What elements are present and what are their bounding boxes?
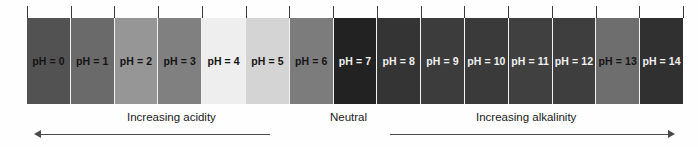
ph-band-14: pH = 14 bbox=[640, 18, 683, 104]
ph-band-label: pH = 14 bbox=[642, 56, 680, 67]
ph-band-label: pH = 0 bbox=[32, 56, 64, 67]
tick-mark bbox=[639, 6, 640, 18]
ph-band-9: pH = 9 bbox=[421, 18, 465, 104]
tick-mark bbox=[683, 6, 684, 18]
ph-band-4: pH = 4 bbox=[202, 18, 246, 104]
tick-mark bbox=[114, 6, 115, 18]
annotation-row: Increasing acidity Neutral Increasing al… bbox=[0, 110, 698, 147]
tick-mark bbox=[508, 6, 509, 18]
ph-band-label: pH = 3 bbox=[164, 56, 196, 67]
ph-band-label: pH = 6 bbox=[295, 56, 327, 67]
ph-band-8: pH = 8 bbox=[377, 18, 421, 104]
alkalinity-arrow-line bbox=[390, 134, 670, 135]
ph-band-label: pH = 12 bbox=[555, 56, 593, 67]
ph-band-label: pH = 7 bbox=[339, 56, 371, 67]
tick-mark bbox=[246, 6, 247, 18]
tick-mark bbox=[421, 6, 422, 18]
ph-band-label: pH = 8 bbox=[383, 56, 415, 67]
increasing-acidity-label: Increasing acidity bbox=[127, 110, 216, 125]
ph-band-label: pH = 4 bbox=[207, 56, 239, 67]
tick-mark bbox=[71, 6, 72, 18]
tick-mark bbox=[464, 6, 465, 18]
tick-mark bbox=[158, 6, 159, 18]
ph-band-3: pH = 3 bbox=[158, 18, 202, 104]
tick-mark bbox=[333, 6, 334, 18]
tick-mark bbox=[289, 6, 290, 18]
tick-mark bbox=[202, 6, 203, 18]
ph-band-5: pH = 5 bbox=[246, 18, 290, 104]
ph-band-label: pH = 2 bbox=[120, 56, 152, 67]
ph-band-label: pH = 9 bbox=[426, 56, 458, 67]
acidity-arrow-line bbox=[38, 134, 270, 135]
ph-band-label: pH = 1 bbox=[76, 56, 108, 67]
ph-band-1: pH = 1 bbox=[71, 18, 115, 104]
ph-scale-figure: pH = 0pH = 1pH = 2pH = 3pH = 4pH = 5pH =… bbox=[0, 0, 698, 147]
ph-band-label: pH = 10 bbox=[467, 56, 505, 67]
tick-mark bbox=[552, 6, 553, 18]
ph-band-label: pH = 5 bbox=[251, 56, 283, 67]
ph-band-label: pH = 13 bbox=[599, 56, 637, 67]
increasing-alkalinity-label: Increasing alkalinity bbox=[476, 110, 576, 125]
ph-band-12: pH = 12 bbox=[553, 18, 597, 104]
ph-band-7: pH = 7 bbox=[334, 18, 378, 104]
tick-mark bbox=[377, 6, 378, 18]
ph-band-0: pH = 0 bbox=[27, 18, 71, 104]
ph-band-11: pH = 11 bbox=[509, 18, 553, 104]
ph-band-2: pH = 2 bbox=[115, 18, 159, 104]
ph-band-10: pH = 10 bbox=[465, 18, 509, 104]
alkalinity-arrow-right-icon bbox=[668, 130, 675, 138]
tick-mark-row bbox=[27, 6, 683, 18]
ph-scale-bar: pH = 0pH = 1pH = 2pH = 3pH = 4pH = 5pH =… bbox=[27, 18, 683, 104]
tick-mark bbox=[27, 6, 28, 18]
tick-mark bbox=[596, 6, 597, 18]
neutral-label: Neutral bbox=[330, 110, 367, 125]
ph-band-6: pH = 6 bbox=[290, 18, 334, 104]
ph-band-label: pH = 11 bbox=[511, 56, 549, 67]
acidity-arrow-left-icon bbox=[34, 130, 41, 138]
ph-band-13: pH = 13 bbox=[596, 18, 640, 104]
